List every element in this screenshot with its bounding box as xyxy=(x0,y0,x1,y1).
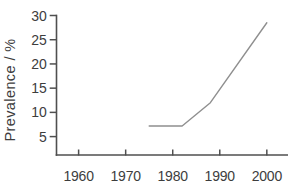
tick-labels: 5101520253019601970198019902000 xyxy=(31,8,282,184)
y-tick-label: 10 xyxy=(31,104,47,120)
y-tick-label: 20 xyxy=(31,56,47,72)
y-tick-label: 5 xyxy=(39,129,47,145)
x-tick-label: 1970 xyxy=(110,168,141,184)
y-axis-title: Prevalence / % xyxy=(2,38,18,141)
prevalence-line-chart: 5101520253019601970198019902000 Prevalen… xyxy=(0,0,305,193)
ticks xyxy=(50,16,267,156)
y-tick-label: 30 xyxy=(31,8,47,24)
x-tick-label: 1960 xyxy=(63,168,94,184)
data-line xyxy=(149,23,267,126)
x-tick-label: 1990 xyxy=(205,168,236,184)
y-tick-label: 15 xyxy=(31,80,47,96)
chart-figure: 5101520253019601970198019902000 Prevalen… xyxy=(0,0,305,193)
axes xyxy=(56,15,288,156)
x-tick-label: 2000 xyxy=(252,168,283,184)
y-tick-label: 25 xyxy=(31,32,47,48)
x-tick-label: 1980 xyxy=(158,168,189,184)
